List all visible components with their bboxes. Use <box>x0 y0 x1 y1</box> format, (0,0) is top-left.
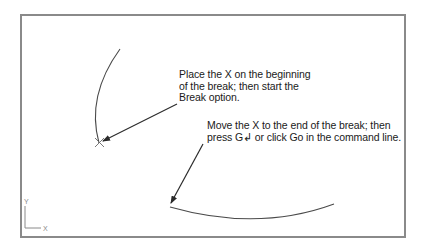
callout-break-start: Place the X on the beginning of the brea… <box>179 69 310 104</box>
callout-arrow-start <box>103 104 177 141</box>
callout-line: press G↲ or click Go in the command line… <box>207 132 401 144</box>
ucs-y-label: Y <box>24 198 29 205</box>
callout-break-end: Move the X to the end of the break; then… <box>207 120 401 143</box>
arc-lower[interactable] <box>170 204 334 219</box>
ucs-icon <box>25 206 41 228</box>
callout-line: Move the X to the end of the break; then <box>207 120 401 132</box>
callout-line: Break option. <box>179 92 310 104</box>
ucs-x-label: X <box>43 225 48 232</box>
callout-arrow-end <box>171 144 203 203</box>
callout-line: Place the X on the beginning <box>179 69 310 81</box>
break-point-x-marker <box>95 138 104 147</box>
arc-upper[interactable] <box>95 49 120 143</box>
